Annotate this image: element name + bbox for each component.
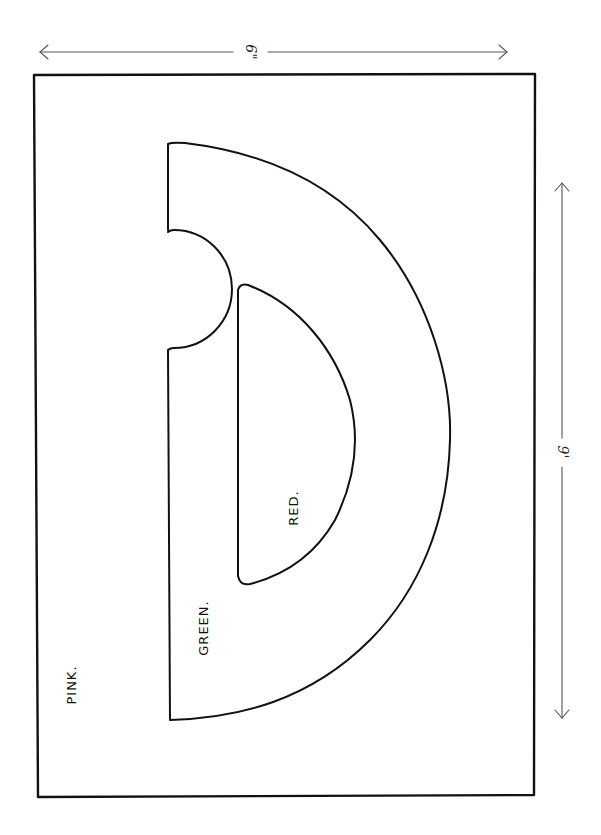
green-region-label: GREEN. — [196, 600, 211, 655]
red-region-label: RED. — [286, 490, 301, 525]
width-dimension: 6" — [40, 44, 507, 59]
length-dimension: 9' — [555, 183, 571, 718]
pink-region-label: PINK. — [64, 665, 79, 704]
red-half-disc-outline — [238, 285, 355, 585]
width-dimension-label: 6" — [243, 44, 259, 59]
length-dimension-label: 9' — [555, 446, 571, 459]
flag-field-outline — [34, 74, 535, 797]
flag-diagram: 6" 9' PINK. GREEN. RED. — [0, 0, 601, 835]
